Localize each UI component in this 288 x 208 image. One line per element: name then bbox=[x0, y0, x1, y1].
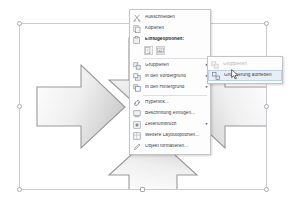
menu-item-label: Einfügeoptionen: bbox=[145, 37, 203, 42]
paste-icon bbox=[131, 35, 142, 45]
group-icon bbox=[131, 61, 142, 71]
shape-context-menu[interactable]: Ausschneiden Kopieren Einfügeoptionen: G… bbox=[129, 9, 211, 155]
menu-separator-2 bbox=[143, 95, 207, 96]
send-to-back-icon bbox=[131, 83, 142, 93]
menu-item-label: In den Vordergrund bbox=[145, 74, 203, 79]
handle-bottom-left[interactable] bbox=[17, 187, 22, 192]
caption-icon bbox=[131, 109, 142, 119]
menu-item-hyperlink[interactable]: Hyperlink... bbox=[130, 97, 210, 108]
menu-item-label: Zeilenumbruch bbox=[145, 122, 203, 127]
handle-bottom-center[interactable] bbox=[140, 187, 145, 192]
copy-icon bbox=[131, 24, 142, 34]
menu-item-in-den-vordergrund[interactable]: In den Vordergrund ▸ bbox=[130, 71, 210, 82]
handle-middle-right[interactable] bbox=[264, 104, 269, 109]
menu-item-weitere-layoutoptionen[interactable]: Weitere Layoutoptionen... bbox=[130, 130, 210, 141]
hyperlink-icon bbox=[131, 98, 142, 108]
menu-item-label: Weitere Layoutoptionen... bbox=[145, 133, 203, 138]
menu-separator-1 bbox=[143, 58, 207, 59]
handle-top-right[interactable] bbox=[264, 21, 269, 26]
paste-options-row[interactable] bbox=[130, 45, 210, 56]
menu-item-beschriftung-einfuegen[interactable]: Beschriftung einfügen... bbox=[130, 108, 210, 119]
menu-item-in-den-hintergrund[interactable]: In den Hintergrund ▸ bbox=[130, 82, 210, 93]
layout-options-icon bbox=[131, 131, 142, 141]
handle-top-left[interactable] bbox=[17, 21, 22, 26]
menu-item-ausschneiden[interactable]: Ausschneiden bbox=[130, 12, 210, 23]
menu-item-gruppieren[interactable]: Gruppieren ▸ bbox=[130, 60, 210, 71]
menu-item-kopieren[interactable]: Kopieren bbox=[130, 23, 210, 34]
group-icon bbox=[209, 60, 220, 70]
handle-middle-left[interactable] bbox=[17, 104, 22, 109]
menu-item-label: Gruppieren bbox=[145, 63, 203, 68]
submenu-arrow: ▸ bbox=[203, 85, 208, 89]
menu-item-label: Beschriftung einfügen... bbox=[145, 111, 203, 116]
menu-item-label: Kopieren bbox=[145, 26, 203, 31]
submenu-item-gruppierung-aufheben[interactable]: Gruppierung aufheben bbox=[208, 70, 282, 81]
paste-picture-icon[interactable] bbox=[156, 46, 165, 55]
menu-item-einfuegeoptionen[interactable]: Einfügeoptionen: bbox=[130, 34, 210, 45]
gruppieren-submenu[interactable]: Gruppieren Gruppierung aufheben bbox=[207, 56, 283, 84]
submenu-item-gruppieren[interactable]: Gruppieren bbox=[208, 59, 282, 70]
menu-item-zeilenumbruch[interactable]: Zeilenumbruch ▸ bbox=[130, 119, 210, 130]
menu-item-label: In den Hintergrund bbox=[145, 85, 203, 90]
text-wrap-icon bbox=[131, 120, 142, 130]
handle-bottom-right[interactable] bbox=[264, 187, 269, 192]
bring-to-front-icon bbox=[131, 72, 142, 82]
format-object-icon bbox=[131, 142, 142, 152]
menu-item-label: Ausschneiden bbox=[145, 15, 203, 20]
paste-source-icon[interactable] bbox=[144, 46, 153, 55]
mouse-pointer bbox=[231, 66, 239, 77]
menu-item-objekt-formatieren[interactable]: Objekt formatieren... bbox=[130, 141, 210, 152]
ungroup-icon bbox=[210, 71, 221, 81]
scissors-icon bbox=[131, 13, 142, 23]
menu-item-label: Hyperlink... bbox=[145, 100, 203, 105]
menu-item-label: Objekt formatieren... bbox=[145, 144, 203, 149]
submenu-arrow: ▸ bbox=[203, 122, 208, 126]
